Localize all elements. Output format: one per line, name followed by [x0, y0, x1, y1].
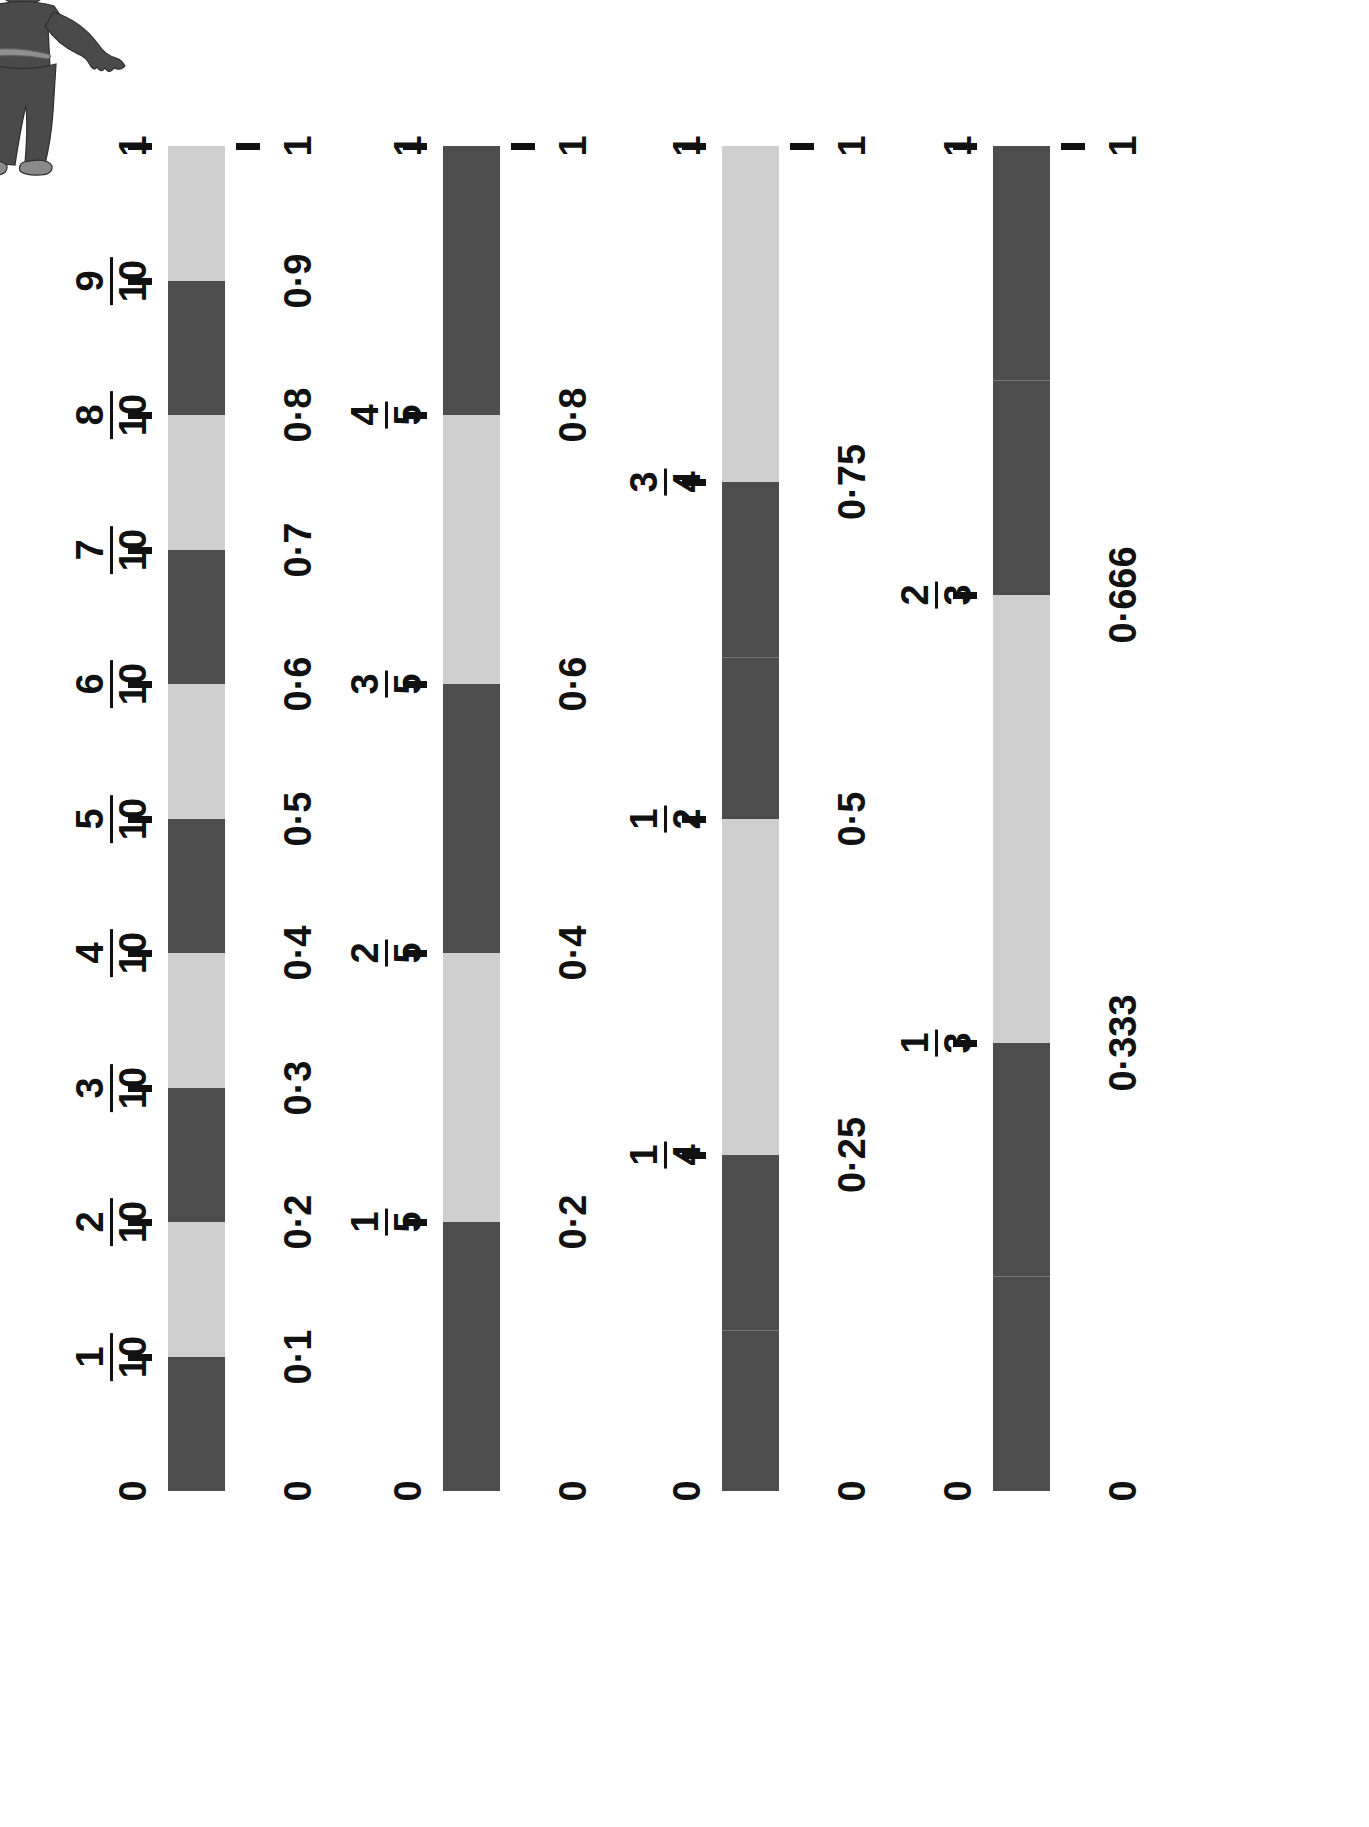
- tick-mark-left: [403, 412, 427, 419]
- decimal-label-0-25: 0·25: [833, 1117, 871, 1193]
- bar-segment: [722, 146, 779, 482]
- decimal-label-0-2: 0·2: [554, 1195, 592, 1250]
- tick-mark-left-top: [953, 143, 977, 150]
- tick-mark-right-top: [1061, 143, 1085, 150]
- tick-mark-left-top: [403, 143, 427, 150]
- bar-segment: [443, 415, 500, 684]
- fraction-decimal-number-strips: 1102103104105106107108109100·10·20·30·40…: [0, 0, 1369, 1827]
- end-label-one-decimal-side: 1: [833, 135, 871, 156]
- bar-segment: [722, 1155, 779, 1491]
- number-strip-fifths: 152535450·20·40·60·80011: [383, 0, 683, 1827]
- bar-segment: [168, 550, 225, 685]
- tick-mark-right-top: [790, 143, 814, 150]
- tick-mark-left: [682, 816, 706, 823]
- tick-mark-left: [403, 950, 427, 957]
- tick-mark-left: [682, 479, 706, 486]
- bar-segment: [168, 1088, 225, 1223]
- tick-mark-left: [128, 1354, 152, 1361]
- end-label-one-decimal-side: 1: [1104, 135, 1142, 156]
- end-label-zero-decimal-side: 0: [833, 1480, 871, 1501]
- decimal-label-0-2: 0·2: [279, 1195, 317, 1250]
- tick-mark-left: [682, 1152, 706, 1159]
- decimal-label-0-666: 0·666: [1104, 547, 1142, 644]
- tick-mark-right-top: [236, 143, 260, 150]
- bar-segment: [993, 595, 1050, 1043]
- tick-mark-left: [128, 1085, 152, 1092]
- end-label-zero-fraction-side: 0: [114, 1480, 152, 1501]
- bar-quarters: [722, 146, 779, 1491]
- bar-thirds: [993, 146, 1050, 1491]
- decimal-label-0-6: 0·6: [279, 657, 317, 712]
- end-label-one-decimal-side: 1: [279, 135, 317, 156]
- bar-segment: [168, 819, 225, 954]
- decimal-label-0-75: 0·75: [833, 444, 871, 520]
- end-label-zero-decimal-side: 0: [554, 1480, 592, 1501]
- print-seam: [722, 1330, 779, 1331]
- decimal-label-0-5: 0·5: [279, 791, 317, 846]
- bar-segment: [443, 953, 500, 1222]
- bar-segment: [722, 819, 779, 1155]
- decimal-label-0-4: 0·4: [279, 926, 317, 981]
- bar-segment: [168, 146, 225, 281]
- end-label-zero-fraction-side: 0: [668, 1480, 706, 1501]
- tick-mark-left: [953, 592, 977, 599]
- decimal-label-0-8: 0·8: [554, 388, 592, 443]
- tick-mark-left: [128, 681, 152, 688]
- print-seam: [993, 380, 1050, 381]
- tick-mark-left-top: [128, 143, 152, 150]
- number-strip-thirds: 13230·3330·6660011: [933, 0, 1233, 1827]
- tick-mark-left: [403, 1219, 427, 1226]
- decimal-label-0-9: 0·9: [279, 253, 317, 308]
- bar-segment: [993, 146, 1050, 595]
- bar-segment: [443, 146, 500, 415]
- print-seam: [993, 1276, 1050, 1277]
- end-label-one-decimal-side: 1: [554, 135, 592, 156]
- tick-mark-left: [128, 1219, 152, 1226]
- decimal-label-0-333: 0·333: [1104, 995, 1142, 1092]
- number-strip-tenths: 1102103104105106107108109100·10·20·30·40…: [108, 0, 408, 1827]
- decimal-label-0-1: 0·1: [279, 1329, 317, 1384]
- tick-mark-left: [128, 950, 152, 957]
- decimal-label-0-6: 0·6: [554, 657, 592, 712]
- bar-segment: [168, 953, 225, 1088]
- decimal-label-0-5: 0·5: [833, 791, 871, 846]
- bar-segment: [168, 684, 225, 819]
- bar-segment: [168, 1357, 225, 1492]
- tick-mark-left: [953, 1040, 977, 1047]
- end-label-zero-decimal-side: 0: [279, 1480, 317, 1501]
- decimal-label-0-7: 0·7: [279, 522, 317, 577]
- bar-tenths: [168, 146, 225, 1491]
- decimal-label-0-3: 0·3: [279, 1060, 317, 1115]
- decimal-label-0-4: 0·4: [554, 926, 592, 981]
- decimal-label-0-8: 0·8: [279, 388, 317, 443]
- number-strip-quarters: 1412340·250·50·750011: [662, 0, 962, 1827]
- end-label-zero-decimal-side: 0: [1104, 1480, 1142, 1501]
- tick-mark-left: [128, 278, 152, 285]
- end-label-zero-fraction-side: 0: [939, 1480, 977, 1501]
- bar-fifths: [443, 146, 500, 1491]
- bar-segment: [168, 281, 225, 416]
- end-label-zero-fraction-side: 0: [389, 1480, 427, 1501]
- tick-mark-left: [128, 816, 152, 823]
- tick-mark-left: [128, 412, 152, 419]
- tick-mark-left: [128, 547, 152, 554]
- tick-mark-left-top: [682, 143, 706, 150]
- bar-segment: [443, 684, 500, 953]
- print-seam: [722, 657, 779, 658]
- bar-segment: [443, 1222, 500, 1491]
- bar-segment: [168, 1222, 225, 1357]
- bar-segment: [168, 415, 225, 550]
- bar-segment: [993, 1043, 1050, 1491]
- tick-mark-right-top: [511, 143, 535, 150]
- tick-mark-left: [403, 681, 427, 688]
- bar-segment: [722, 482, 779, 818]
